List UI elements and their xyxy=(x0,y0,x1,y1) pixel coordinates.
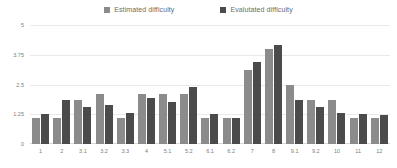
bar-group xyxy=(263,25,284,144)
bar-group xyxy=(178,25,199,144)
bar-group xyxy=(221,25,242,144)
bar[interactable] xyxy=(295,100,303,144)
y-axis-tick-label: 2.5 xyxy=(16,82,24,88)
bar[interactable] xyxy=(62,100,70,144)
bar[interactable] xyxy=(53,118,61,144)
bar-group xyxy=(284,25,305,144)
bar[interactable] xyxy=(168,102,176,144)
x-axis-tick-label: 6.2 xyxy=(221,147,242,159)
bar-series-container xyxy=(30,25,390,144)
bar-group xyxy=(242,25,263,144)
bar-group xyxy=(326,25,347,144)
bar[interactable] xyxy=(232,118,240,144)
bar[interactable] xyxy=(350,118,358,144)
x-axis-tick-label: 2 xyxy=(51,147,72,159)
bar[interactable] xyxy=(337,113,345,144)
bar-group xyxy=(199,25,220,144)
bar[interactable] xyxy=(244,70,252,144)
x-axis: 123.13.23.345.15.26.16.2789.19.2101112 xyxy=(30,147,390,159)
bar[interactable] xyxy=(328,100,336,144)
bar[interactable] xyxy=(126,113,134,144)
y-axis-tick-label: 0 xyxy=(21,141,24,147)
x-axis-tick-label: 12 xyxy=(369,147,390,159)
bar[interactable] xyxy=(159,94,167,144)
bar[interactable] xyxy=(359,114,367,144)
bar-group xyxy=(305,25,326,144)
bar[interactable] xyxy=(41,114,49,144)
x-axis-tick-label: 7 xyxy=(242,147,263,159)
bar[interactable] xyxy=(83,107,91,144)
bar[interactable] xyxy=(32,118,40,144)
x-axis-tick-label: 3.2 xyxy=(94,147,115,159)
bar[interactable] xyxy=(371,118,379,144)
x-axis-tick-label: 5.1 xyxy=(157,147,178,159)
bar[interactable] xyxy=(180,94,188,144)
x-axis-tick-label: 4 xyxy=(136,147,157,159)
bar[interactable] xyxy=(201,118,209,144)
legend-swatch-estimated-icon xyxy=(104,7,110,13)
bar[interactable] xyxy=(380,115,388,144)
x-axis-tick-label: 11 xyxy=(348,147,369,159)
legend-item-estimated[interactable]: Estimated difficulty xyxy=(104,6,174,14)
y-axis-tick-label: 5 xyxy=(21,22,24,28)
bar[interactable] xyxy=(117,118,125,144)
bar[interactable] xyxy=(274,45,282,144)
bar-group xyxy=(72,25,93,144)
chart-legend: Estimated difficulty Evalutated difficul… xyxy=(0,3,397,17)
legend-swatch-evaluated-icon xyxy=(220,7,226,13)
bar-group xyxy=(94,25,115,144)
bar[interactable] xyxy=(223,118,231,144)
bar-group xyxy=(348,25,369,144)
x-axis-tick-label: 3.1 xyxy=(72,147,93,159)
bar[interactable] xyxy=(286,85,294,145)
x-axis-tick-label: 5.2 xyxy=(178,147,199,159)
x-axis-tick-label: 3.3 xyxy=(115,147,136,159)
y-axis: 01.252.53.755 xyxy=(0,25,27,144)
bar-group xyxy=(30,25,51,144)
x-axis-tick-label: 6.1 xyxy=(199,147,220,159)
x-axis-tick-label: 1 xyxy=(30,147,51,159)
x-axis-tick-label: 9.1 xyxy=(284,147,305,159)
y-axis-tick-label: 3.75 xyxy=(13,52,24,58)
bar[interactable] xyxy=(138,94,146,144)
legend-label-estimated: Estimated difficulty xyxy=(114,6,174,14)
bar-group xyxy=(136,25,157,144)
bar[interactable] xyxy=(316,107,324,144)
bar[interactable] xyxy=(253,62,261,144)
bar[interactable] xyxy=(96,94,104,144)
x-axis-tick-label: 9.2 xyxy=(305,147,326,159)
x-axis-tick-label: 10 xyxy=(326,147,347,159)
y-axis-tick-label: 1.25 xyxy=(13,111,24,117)
bar-group xyxy=(115,25,136,144)
bar-chart: Estimated difficulty Evalutated difficul… xyxy=(0,0,397,168)
bar[interactable] xyxy=(210,114,218,144)
bar-group xyxy=(51,25,72,144)
bar[interactable] xyxy=(74,100,82,144)
bar[interactable] xyxy=(307,100,315,144)
x-axis-tick-label: 8 xyxy=(263,147,284,159)
legend-label-evaluated: Evalutated difficulty xyxy=(230,6,292,14)
bar[interactable] xyxy=(189,87,197,144)
bar-group xyxy=(157,25,178,144)
bar-group xyxy=(369,25,390,144)
bar[interactable] xyxy=(105,105,113,144)
bar[interactable] xyxy=(147,98,155,144)
legend-item-evaluated[interactable]: Evalutated difficulty xyxy=(220,6,292,14)
bar[interactable] xyxy=(265,49,273,144)
